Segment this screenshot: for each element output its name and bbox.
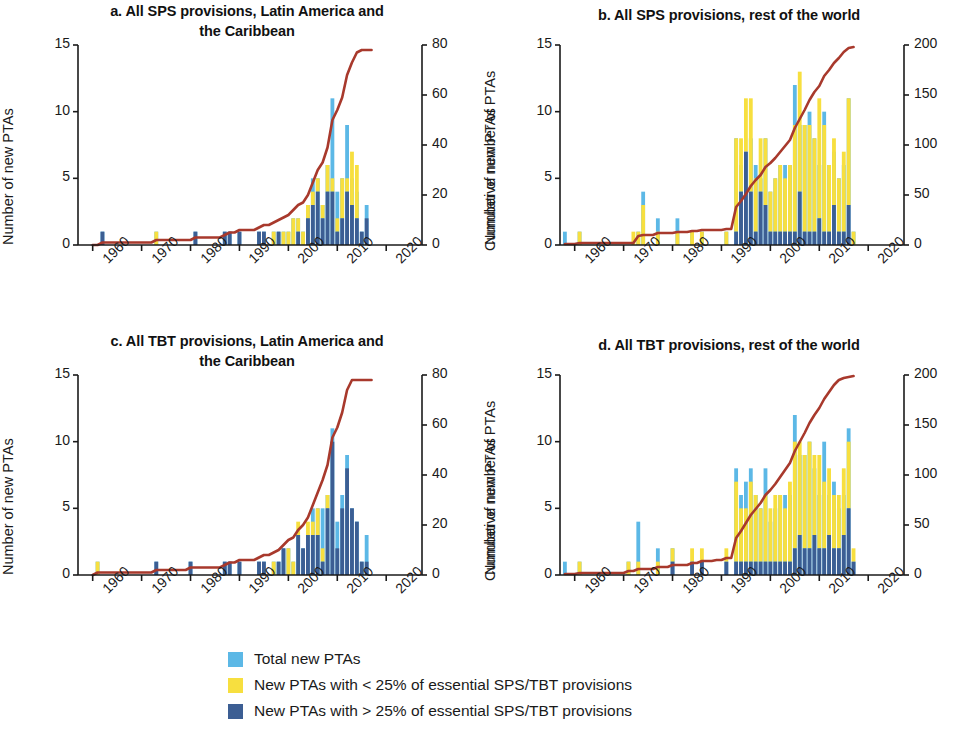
bar-gt25 <box>817 218 821 245</box>
bar-gt25 <box>335 548 339 575</box>
bar-gt25 <box>724 562 728 575</box>
bar-gt25 <box>330 192 334 245</box>
y-tick-label: 5 <box>512 498 552 514</box>
bar-gt25 <box>330 442 334 575</box>
y-tick-label: 15 <box>512 365 552 381</box>
bar-gt25 <box>345 468 349 575</box>
bar-lt25 <box>759 508 763 561</box>
bar-gt25 <box>340 508 344 575</box>
bar-lt25 <box>734 482 738 562</box>
bar-lt25 <box>724 232 728 245</box>
bar-gt25 <box>822 232 826 245</box>
bars-group-a <box>101 98 369 245</box>
bar-lt25 <box>282 232 286 245</box>
bar-lt25 <box>754 178 758 231</box>
y2-tick-label: 80 <box>432 365 476 381</box>
bar-lt25 <box>355 165 359 218</box>
bar-gt25 <box>282 548 286 575</box>
y-axis-title: Number of new PTAs <box>482 108 498 245</box>
y-axis-title: Number of new PTAs <box>482 438 498 575</box>
y2-tick-label: 200 <box>914 365 958 381</box>
y2-tick-label: 80 <box>432 35 476 51</box>
y2-tick-label: 20 <box>432 515 476 531</box>
bar-lt25 <box>783 178 787 231</box>
cumulative-line-a <box>93 50 372 245</box>
bar-lt25 <box>808 125 812 232</box>
bar-lt25 <box>773 178 777 231</box>
y2-tick-label: 100 <box>914 135 958 151</box>
bar-gt25 <box>812 232 816 245</box>
bar-lt25 <box>817 455 821 548</box>
bars-group-d <box>563 415 855 575</box>
panel-a: a. All SPS provisions, Latin America and… <box>0 0 482 330</box>
legend-label: Total new PTAs <box>254 650 361 668</box>
bar-gt25 <box>350 205 354 245</box>
y2-tick-label: 20 <box>432 185 476 201</box>
y2-tick-label: 150 <box>914 415 958 431</box>
bar-gt25 <box>827 535 831 575</box>
bar-lt25 <box>768 508 772 561</box>
plot-area-c <box>0 330 482 640</box>
bar-lt25 <box>335 218 339 231</box>
y2-tick-label: 0 <box>432 565 476 581</box>
y-tick-label: 15 <box>512 35 552 51</box>
y-tick-label: 10 <box>512 102 552 118</box>
bar-gt25 <box>345 192 349 245</box>
plot-area-a <box>0 0 482 330</box>
bar-lt25 <box>847 442 851 509</box>
bar-gt25 <box>764 205 768 245</box>
bar-gt25 <box>154 562 158 575</box>
bar-gt25 <box>744 152 748 245</box>
legend-item-total: Total new PTAs <box>228 646 868 672</box>
bar-lt25 <box>326 495 330 508</box>
bar-gt25 <box>238 232 242 245</box>
bar-lt25 <box>778 495 782 562</box>
legend-label: New PTAs with > 25% of essential SPS/TBT… <box>254 702 632 720</box>
bar-gt25 <box>812 535 816 575</box>
y2-tick-label: 0 <box>432 235 476 251</box>
y-tick-label: 5 <box>30 168 70 184</box>
bar-lt25 <box>311 522 315 535</box>
bar-lt25 <box>812 455 816 535</box>
bar-lt25 <box>291 562 295 575</box>
legend-swatch-lt25 <box>228 678 243 693</box>
bar-gt25 <box>764 562 768 575</box>
bar-lt25 <box>842 152 846 232</box>
y2-tick-label: 200 <box>914 35 958 51</box>
bar-lt25 <box>316 178 320 191</box>
bar-lt25 <box>788 482 792 562</box>
bar-gt25 <box>671 562 675 575</box>
bar-lt25 <box>827 165 831 232</box>
bar-lt25 <box>812 138 816 231</box>
bar-gt25 <box>832 548 836 575</box>
bar-lt25 <box>671 548 675 561</box>
bar-gt25 <box>296 535 300 575</box>
bar-lt25 <box>788 165 792 232</box>
y2-tick-label: 150 <box>914 85 958 101</box>
bar-lt25 <box>759 138 763 191</box>
y2-tick-label: 100 <box>914 465 958 481</box>
bar-lt25 <box>286 548 290 575</box>
panel-c: c. All TBT provisions, Latin America and… <box>0 330 482 640</box>
bar-gt25 <box>301 548 305 575</box>
bar-lt25 <box>350 152 354 205</box>
bar-lt25 <box>837 495 841 548</box>
bar-lt25 <box>330 178 334 191</box>
bar-gt25 <box>768 562 772 575</box>
y2-tick-label: 0 <box>914 235 958 251</box>
y-tick-label: 5 <box>512 168 552 184</box>
bar-lt25 <box>311 192 315 205</box>
y-tick-label: 0 <box>30 565 70 581</box>
bar-lt25 <box>676 232 680 245</box>
bar-lt25 <box>822 125 826 232</box>
bar-gt25 <box>335 232 339 245</box>
cumulative-line-c <box>93 380 372 575</box>
y-tick-label: 15 <box>30 365 70 381</box>
legend-swatch-gt25 <box>228 704 243 719</box>
bar-lt25 <box>340 178 344 218</box>
bar-gt25 <box>822 548 826 575</box>
bar-lt25 <box>326 165 330 192</box>
bar-gt25 <box>778 232 782 245</box>
panel-b: b. All SPS provisions, rest of the world… <box>482 0 964 330</box>
y-tick-label: 10 <box>512 432 552 448</box>
